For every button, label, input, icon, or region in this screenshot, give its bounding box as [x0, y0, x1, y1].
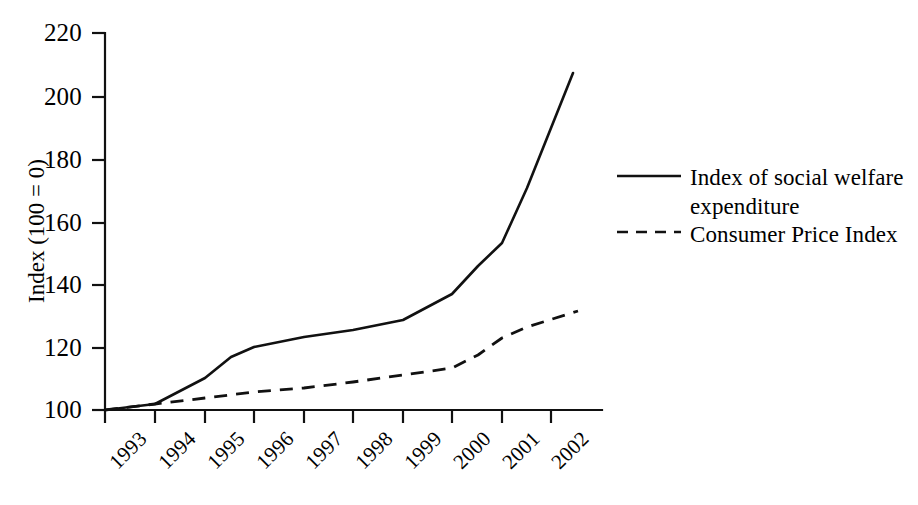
series-line-consumer-price-index — [105, 311, 578, 410]
plot-area — [0, 0, 918, 505]
legend-label-social-welfare-expenditure: Index of social welfare expenditure — [690, 163, 904, 222]
series-line-social-welfare-expenditure — [105, 73, 573, 410]
chart-figure: Index (100 = 0) 220 200 180 160 140 120 … — [0, 0, 918, 505]
legend-label-consumer-price-index: Consumer Price Index — [690, 220, 898, 249]
